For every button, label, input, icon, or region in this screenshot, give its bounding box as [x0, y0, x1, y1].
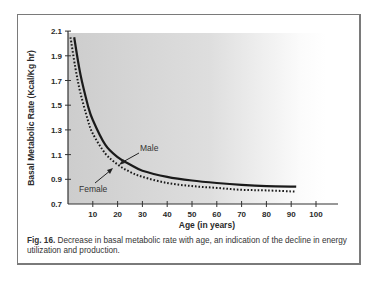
- y-tick-label: 0.7: [51, 200, 63, 209]
- x-tick-label: 100: [309, 210, 323, 219]
- x-tick-label: 80: [262, 210, 271, 219]
- x-tick-label: 40: [163, 210, 172, 219]
- x-tick-label: 10: [88, 210, 97, 219]
- y-tick-label: 1.5: [51, 101, 63, 110]
- plot-area: [68, 33, 326, 204]
- x-axis-title: Age (in years): [179, 220, 235, 230]
- y-axis-title: Basal Metabolic Rate (Kcal/Kg hr): [26, 50, 36, 186]
- y-tick-label: 1.1: [51, 151, 63, 160]
- y-tick-label: 1.7: [51, 77, 63, 86]
- y-tick-label: 2.1: [51, 27, 63, 36]
- figure-label: Fig. 16.: [27, 236, 55, 245]
- y-tick-label: 1.9: [51, 52, 63, 61]
- figure-caption-text: Decrease in basal metabolic rate with ag…: [27, 236, 347, 255]
- x-tick-label: 50: [188, 210, 197, 219]
- annotation-male-label: Male: [140, 143, 159, 153]
- x-tick-label: 70: [237, 210, 246, 219]
- y-tick-label: 0.9: [51, 175, 63, 184]
- x-tick-label: 30: [138, 210, 147, 219]
- y-tick-label: 1.3: [51, 126, 63, 135]
- x-tick-label: 60: [212, 210, 221, 219]
- annotation-female-label: Female: [79, 184, 108, 194]
- x-tick-label: 90: [287, 210, 296, 219]
- figure-caption: Fig. 16. Decrease in basal metabolic rat…: [27, 236, 347, 255]
- x-tick-label: 20: [113, 210, 122, 219]
